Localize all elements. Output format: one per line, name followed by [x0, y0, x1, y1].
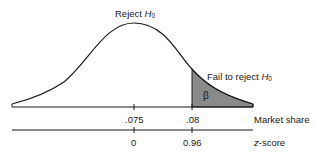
- tick-label-075: .075: [125, 115, 144, 125]
- tick-label-z096: 0.96: [183, 138, 202, 148]
- fail-to-reject-h0-label: Fail to reject H0: [207, 72, 272, 83]
- beta-symbol: β: [203, 91, 209, 101]
- reject-h0-label: Reject H0: [115, 9, 155, 20]
- tick-label-z0: 0: [131, 138, 136, 148]
- tick-label-08: .08: [186, 115, 199, 125]
- z-score-axis-label: z-score: [254, 138, 285, 148]
- market-share-axis-label: Market share: [254, 115, 309, 125]
